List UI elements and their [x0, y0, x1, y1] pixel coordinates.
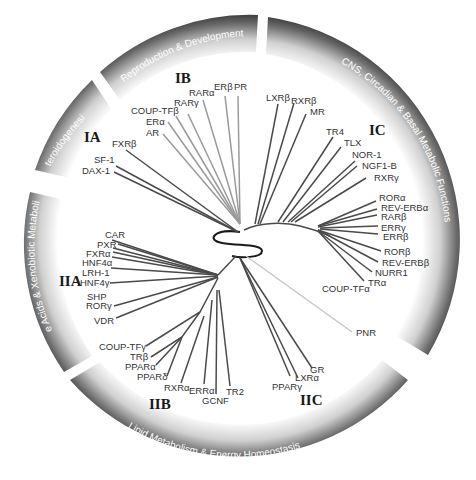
central-loop	[214, 231, 262, 257]
leaf-label: RORβ	[384, 246, 411, 257]
clade-label-iib: IIB	[149, 396, 171, 412]
leaf-label: PR	[234, 81, 247, 92]
clade-label-ic: IC	[369, 122, 386, 138]
leaf-label: ERRβ	[383, 231, 409, 242]
leaf-label: PPARδ	[137, 371, 167, 382]
band-lipid	[70, 360, 408, 456]
leaf-label: GR	[310, 364, 324, 375]
leaves-ib: RARα ERβ PR RARγ COUP-TFβ ERα AR	[131, 81, 247, 138]
clade-label-iia: IIA	[59, 273, 82, 289]
leaf-label: NGF1-B	[362, 160, 397, 171]
leaf-label: ERβ	[214, 81, 233, 92]
leaf-label: DAX-1	[82, 165, 110, 176]
leaf-label: RARβ	[381, 211, 407, 222]
nuclear-receptor-tree-diagram: Steroidogenesis Reproduction & Developme…	[0, 0, 476, 480]
leaf-label: NOR-1	[352, 149, 382, 160]
leaf-label: RXRα	[164, 382, 190, 393]
leaf-label: TR2	[226, 386, 244, 397]
leaf-label: RXRγ	[374, 172, 399, 183]
leaf-label: COUP-TFα	[322, 283, 370, 294]
leaf-label: VDR	[94, 315, 114, 326]
clade-label-ib: IB	[175, 70, 191, 86]
leaf-label: TLX	[344, 137, 362, 148]
leaf-label: SF-1	[94, 154, 115, 165]
leaves-iic: PPARγ LXRα GR	[272, 364, 324, 392]
leaf-label: AR	[146, 127, 159, 138]
leaf-label-pnr: PNR	[356, 327, 376, 338]
tree-branches	[110, 96, 381, 394]
leaf-label: LXRβ	[266, 92, 290, 103]
leaf-label: HNF4γ	[80, 277, 110, 288]
clade-label-iic: IIC	[300, 392, 323, 408]
leaf-label: TRα	[368, 277, 387, 288]
leaf-label: TR4	[326, 126, 344, 137]
leaf-label: RORγ	[86, 300, 112, 311]
leaf-label: RXRβ	[291, 95, 317, 106]
leaf-label: ERα	[146, 116, 165, 127]
leaf-label: COUP-TFβ	[131, 105, 179, 116]
leaf-label: FXRβ	[112, 138, 137, 149]
leaf-label: MR	[310, 106, 325, 117]
clade-label-ia: IA	[84, 129, 101, 145]
